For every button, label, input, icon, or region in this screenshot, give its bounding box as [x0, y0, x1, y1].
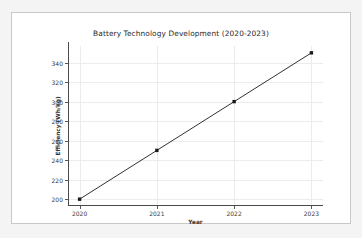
data-point-marker	[78, 197, 81, 200]
y-tick-label: 200	[52, 196, 63, 203]
x-tick-mark	[157, 206, 158, 209]
data-point-marker	[232, 100, 235, 103]
x-tick-mark	[80, 206, 81, 209]
chart-figure-card: Battery Technology Development (2020-202…	[11, 12, 351, 224]
page-background: Battery Technology Development (2020-202…	[0, 0, 362, 238]
plot-wrapper: 200220240260280300320340 202020212022202…	[68, 46, 323, 206]
x-tick-label: 2022	[226, 210, 241, 217]
y-tick-label: 220	[52, 176, 63, 183]
data-point-marker	[155, 149, 158, 152]
y-tick-label: 320	[52, 79, 63, 86]
data-point-marker	[310, 51, 313, 54]
chart-title: Battery Technology Development (2020-202…	[12, 29, 350, 38]
x-axis-label: Year	[68, 219, 323, 225]
x-tick-label: 2021	[149, 210, 164, 217]
y-tick-label: 240	[52, 157, 63, 164]
y-tick-label: 340	[52, 59, 63, 66]
data-series-line	[68, 46, 323, 206]
y-axis-label: Efficiency (Wh/kg)	[55, 96, 61, 155]
x-tick-label: 2023	[304, 210, 319, 217]
x-tick-mark	[234, 206, 235, 209]
x-tick-label: 2020	[72, 210, 87, 217]
x-tick-mark	[311, 206, 312, 209]
